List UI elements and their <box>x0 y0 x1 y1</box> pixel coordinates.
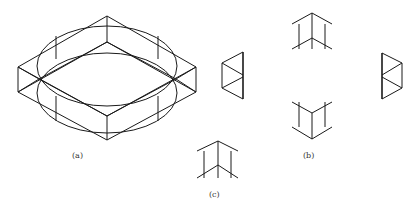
edge <box>382 63 402 75</box>
edge <box>222 63 243 75</box>
edge <box>222 88 243 99</box>
panel-b-views: (b) <box>222 13 402 160</box>
left-corner-diag-2 <box>18 79 39 92</box>
edge <box>222 77 243 88</box>
edge <box>222 52 243 63</box>
figure-canvas: (a) <box>0 0 415 210</box>
view-top <box>292 13 332 49</box>
inner-v <box>292 102 332 113</box>
edge <box>382 53 402 63</box>
edge <box>382 77 402 88</box>
edge <box>382 88 402 99</box>
right-corner-diag-2 <box>176 79 196 92</box>
label-c: (c) <box>209 190 220 199</box>
label-a: (a) <box>72 151 83 160</box>
view-right <box>382 53 402 99</box>
view-bottom <box>292 102 332 139</box>
panel-c-view: (c) <box>197 141 238 199</box>
panel-a-isometric-frame: (a) <box>18 16 196 160</box>
label-b: (b) <box>303 151 314 160</box>
view-left <box>222 52 243 99</box>
right-corner-diag-1 <box>176 67 196 79</box>
left-corner-diag-1 <box>18 67 39 79</box>
